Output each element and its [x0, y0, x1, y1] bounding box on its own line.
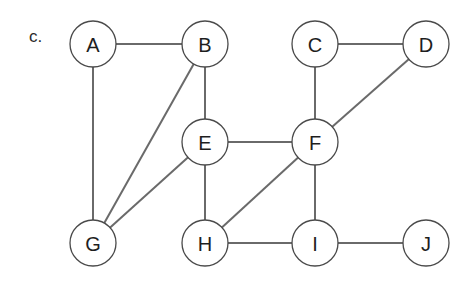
node-label: H — [198, 233, 212, 255]
graph-canvas: ABCDEFGHIJ — [0, 0, 473, 288]
node-f: F — [292, 119, 338, 165]
node-label: B — [198, 34, 211, 56]
node-j: J — [403, 220, 449, 266]
node-label: G — [85, 233, 101, 255]
node-label: A — [86, 34, 100, 56]
edges-layer — [93, 44, 426, 243]
node-label: E — [198, 132, 211, 154]
node-e: E — [182, 119, 228, 165]
node-label: I — [312, 233, 318, 255]
node-c: C — [292, 21, 338, 67]
node-a: A — [70, 21, 116, 67]
node-i: I — [292, 220, 338, 266]
node-g: G — [70, 220, 116, 266]
nodes-layer: ABCDEFGHIJ — [70, 21, 449, 266]
node-label: F — [309, 132, 321, 154]
node-h: H — [182, 220, 228, 266]
node-b: B — [182, 21, 228, 67]
node-label: D — [419, 34, 433, 56]
graph-diagram: c. ABCDEFGHIJ — [0, 0, 473, 288]
node-d: D — [403, 21, 449, 67]
node-label: C — [308, 34, 322, 56]
node-label: J — [421, 233, 431, 255]
